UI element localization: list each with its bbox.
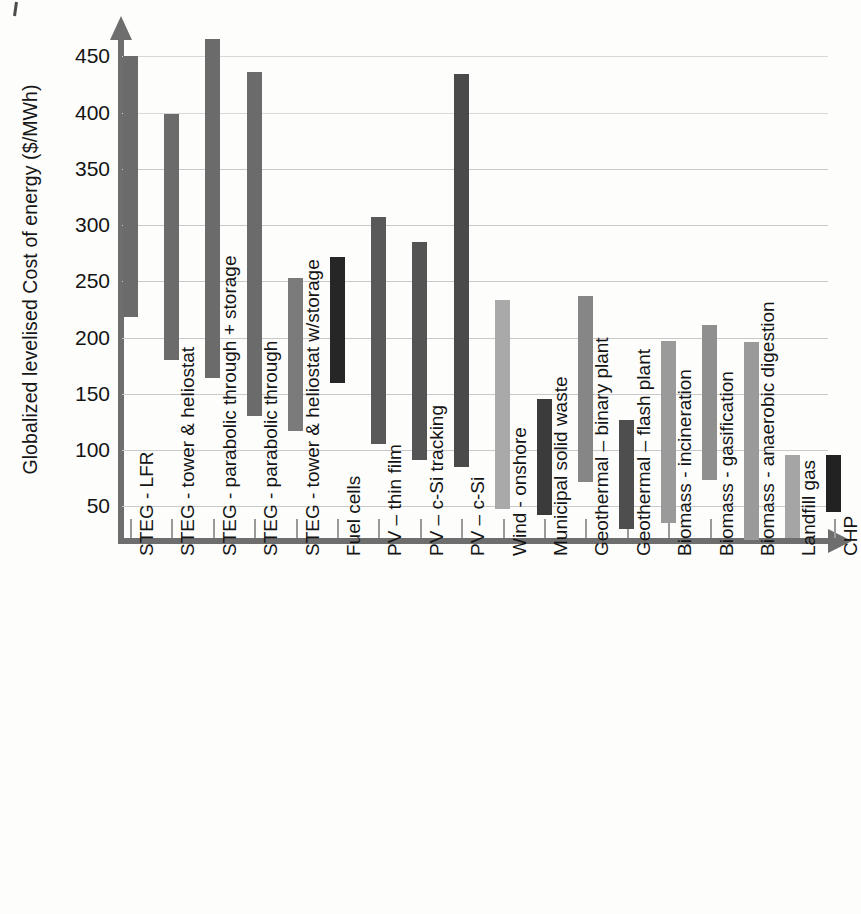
x-tick-10 <box>544 519 546 538</box>
x-label-17: CHP <box>841 516 860 556</box>
x-label-13: Biomass - incineration <box>675 369 694 556</box>
y-axis-title: Globalized levelised Cost of energy ($/M… <box>19 45 42 515</box>
x-tick-0 <box>130 519 132 538</box>
x-label-7: PV – c-Si tracking <box>427 405 446 556</box>
x-label-8: PV – c-Si <box>468 477 487 556</box>
x-label-5: Fuel cells <box>344 476 363 556</box>
y-tick-label-450: 450 <box>48 45 110 66</box>
y-tick-label-50: 50 <box>48 495 110 516</box>
y-tick-label-300: 300 <box>48 214 110 235</box>
y-tick-label-200: 200 <box>48 327 110 348</box>
bar-1[interactable] <box>164 114 179 360</box>
x-tick-8 <box>461 519 463 538</box>
x-label-11: Geothermal – binary plant <box>592 337 611 556</box>
y-tick-label-400: 400 <box>48 102 110 123</box>
x-label-10: Municipal solid waste <box>551 376 570 556</box>
x-tick-4 <box>296 519 298 538</box>
bar-4[interactable] <box>288 278 303 431</box>
x-label-1: STEG - tower & heliostat <box>178 347 197 556</box>
x-tick-5 <box>337 519 339 538</box>
bar-6[interactable] <box>371 217 386 444</box>
x-tick-2 <box>213 519 215 538</box>
x-tick-11 <box>585 519 587 538</box>
x-tick-7 <box>420 519 422 538</box>
x-tick-3 <box>254 519 256 538</box>
x-tick-6 <box>378 519 380 538</box>
y-axis-arrowhead <box>110 16 132 40</box>
x-tick-1 <box>171 519 173 538</box>
y-tick-label-100: 100 <box>48 439 110 460</box>
gridline-300 <box>122 225 828 226</box>
x-label-15: Biomass - anaerobic digestion <box>758 301 777 556</box>
gridline-400 <box>122 113 828 114</box>
bar-17[interactable] <box>826 455 841 512</box>
y-tick-label-150: 150 <box>48 383 110 404</box>
x-label-0: STEG - LFR <box>137 451 156 556</box>
x-label-12: Geothermal – flash plant <box>634 349 653 556</box>
x-label-9: Wind - onshore <box>510 427 529 556</box>
bar-5[interactable] <box>330 257 345 383</box>
x-label-16: Landfill gas <box>799 460 818 556</box>
x-tick-17 <box>834 519 836 538</box>
x-label-4: STEG - tower & heliostat w/storage <box>303 259 322 556</box>
x-label-2: STEG - parabolic through + storage <box>220 256 239 556</box>
y-tick-label-250: 250 <box>48 270 110 291</box>
bar-8[interactable] <box>454 74 469 467</box>
x-label-3: STEG - parabolic through <box>261 341 280 556</box>
x-tick-14 <box>710 519 712 538</box>
y-tick-label-350: 350 <box>48 158 110 179</box>
gridline-450 <box>122 56 828 57</box>
bar-14[interactable] <box>702 325 717 480</box>
x-label-6: PV – thin film <box>385 444 404 556</box>
bar-0[interactable] <box>123 56 138 317</box>
gridline-350 <box>122 169 828 170</box>
bar-9[interactable] <box>495 300 510 508</box>
scan-artifact <box>13 2 18 16</box>
x-tick-9 <box>503 519 505 538</box>
x-label-14: Biomass - gasification <box>717 371 736 556</box>
